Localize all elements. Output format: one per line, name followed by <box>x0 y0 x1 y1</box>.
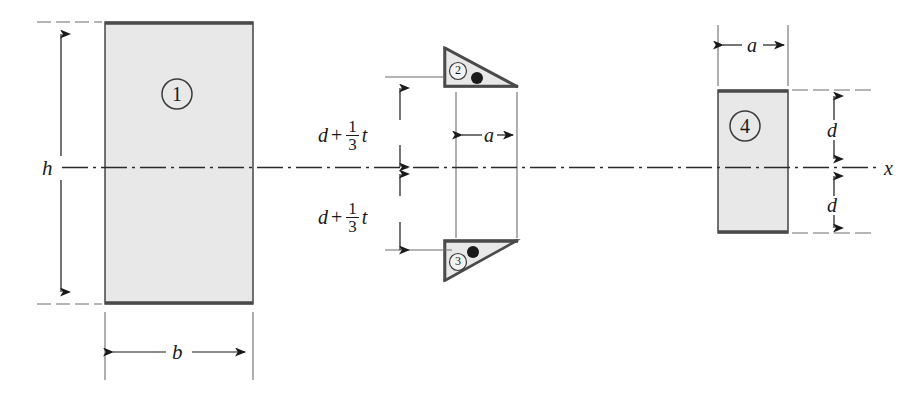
offset-upper-variable: t <box>362 124 368 147</box>
centroid-marker-3 <box>467 246 479 258</box>
part-label-2: 2 <box>452 64 464 76</box>
dimension-label-offset-upper: d + 1 3 t <box>318 118 367 154</box>
dimension-label-a-middle: a <box>484 125 494 145</box>
dimension-label-h: h <box>42 158 53 179</box>
offset-lower-fraction: 1 3 <box>346 200 359 236</box>
offset-lower-operator: + <box>331 206 342 229</box>
dimension-label-d-lower: d <box>827 195 837 215</box>
dimension-a-middle <box>456 92 517 238</box>
dimension-label-d-upper: d <box>827 120 837 140</box>
offset-lower-denominator: 3 <box>346 217 359 235</box>
dimension-label-b: b <box>172 342 183 363</box>
part-label-1: 1 <box>167 84 187 104</box>
dimension-label-a-right: a <box>747 35 757 55</box>
offset-upper-numerator: 1 <box>346 118 359 135</box>
part-1-rectangle <box>105 22 253 304</box>
dimension-label-offset-lower: d + 1 3 t <box>318 200 367 236</box>
figure-canvas <box>0 0 924 400</box>
centroid-marker-2 <box>471 72 483 84</box>
offset-upper-fraction: 1 3 <box>346 118 359 154</box>
part-4-rectangle <box>718 90 788 233</box>
offset-upper-base: d <box>318 124 328 147</box>
offset-upper-operator: + <box>331 124 342 147</box>
axis-label-x: x <box>884 158 893 178</box>
offset-lower-variable: t <box>362 206 368 229</box>
part-label-4: 4 <box>735 116 755 136</box>
offset-upper-denominator: 3 <box>346 135 359 153</box>
composite-section-figure: h b a a d d x d + 1 3 t d + 1 3 t 1 2 3 … <box>0 0 924 400</box>
offset-lower-numerator: 1 <box>346 200 359 217</box>
offset-lower-base: d <box>318 206 328 229</box>
part-label-3: 3 <box>452 255 464 267</box>
